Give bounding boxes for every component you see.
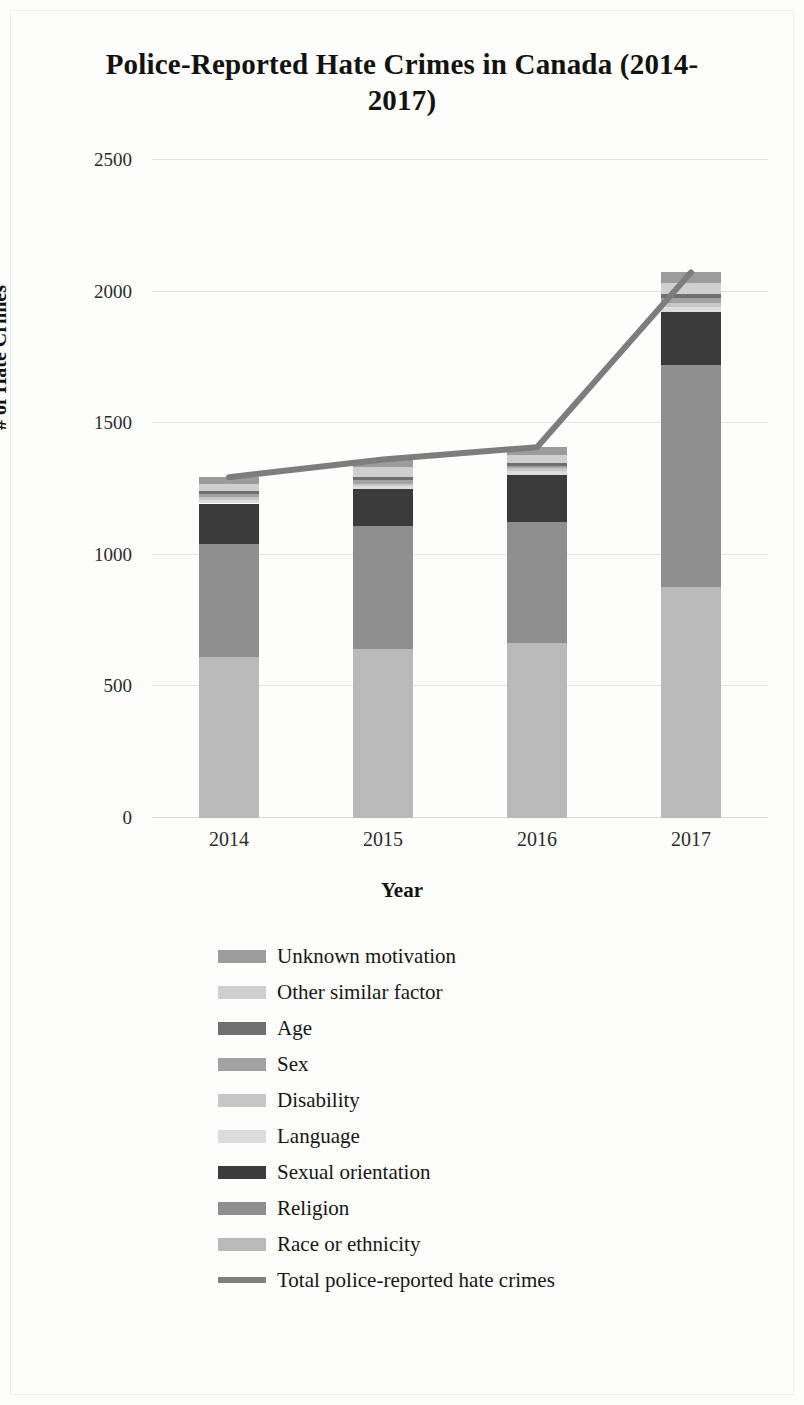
legend-label: Sexual orientation bbox=[277, 1160, 430, 1185]
legend-label: Disability bbox=[277, 1088, 360, 1113]
y-tick-label: 2500 bbox=[62, 149, 132, 171]
legend-label: Sex bbox=[277, 1052, 309, 1077]
legend-label: Unknown motivation bbox=[277, 944, 456, 969]
legend-item[interactable]: Race or ethnicity bbox=[218, 1226, 698, 1262]
chart-legend: Unknown motivationOther similar factorAg… bbox=[218, 938, 698, 1298]
legend-item[interactable]: Total police-reported hate crimes bbox=[218, 1262, 698, 1298]
y-tick-label: 0 bbox=[62, 807, 132, 829]
legend-item[interactable]: Disability bbox=[218, 1082, 698, 1118]
legend-item[interactable]: Language bbox=[218, 1118, 698, 1154]
y-tick-label: 2000 bbox=[62, 281, 132, 303]
y-tick-label: 1500 bbox=[62, 412, 132, 434]
legend-item[interactable]: Sexual orientation bbox=[218, 1154, 698, 1190]
legend-swatch-icon bbox=[218, 1130, 266, 1143]
total-hate-crimes-line bbox=[229, 272, 691, 477]
y-tick-label: 1000 bbox=[62, 544, 132, 566]
legend-label: Age bbox=[277, 1016, 312, 1041]
legend-item[interactable]: Sex bbox=[218, 1046, 698, 1082]
legend-item[interactable]: Other similar factor bbox=[218, 974, 698, 1010]
legend-swatch-icon bbox=[218, 1166, 266, 1179]
legend-item[interactable]: Unknown motivation bbox=[218, 938, 698, 974]
legend-swatch-icon bbox=[218, 1022, 266, 1035]
total-line-overlay bbox=[152, 160, 768, 818]
legend-label: Language bbox=[277, 1124, 360, 1149]
x-tick-label: 2014 bbox=[169, 828, 289, 851]
legend-swatch-icon bbox=[218, 1058, 266, 1071]
y-axis-title: # of Hate Crimes bbox=[0, 285, 11, 430]
x-tick-label: 2016 bbox=[477, 828, 597, 851]
plot-area bbox=[152, 160, 768, 818]
x-axis-title: Year bbox=[0, 878, 804, 903]
legend-label: Other similar factor bbox=[277, 980, 443, 1005]
chart-title: Police-Reported Hate Crimes in Canada (2… bbox=[100, 46, 704, 118]
legend-label: Religion bbox=[277, 1196, 349, 1221]
legend-label: Race or ethnicity bbox=[277, 1232, 420, 1257]
legend-item[interactable]: Religion bbox=[218, 1190, 698, 1226]
legend-swatch-icon bbox=[218, 1202, 266, 1215]
legend-swatch-icon bbox=[218, 1094, 266, 1107]
chart-page: Police-Reported Hate Crimes in Canada (2… bbox=[0, 0, 804, 1405]
legend-swatch-icon bbox=[218, 950, 266, 963]
legend-swatch-icon bbox=[218, 1238, 266, 1251]
legend-item[interactable]: Age bbox=[218, 1010, 698, 1046]
legend-line-icon bbox=[218, 1277, 266, 1283]
legend-swatch-icon bbox=[218, 986, 266, 999]
legend-label: Total police-reported hate crimes bbox=[277, 1268, 555, 1293]
x-tick-label: 2015 bbox=[323, 828, 443, 851]
y-tick-label: 500 bbox=[62, 675, 132, 697]
x-tick-label: 2017 bbox=[631, 828, 751, 851]
